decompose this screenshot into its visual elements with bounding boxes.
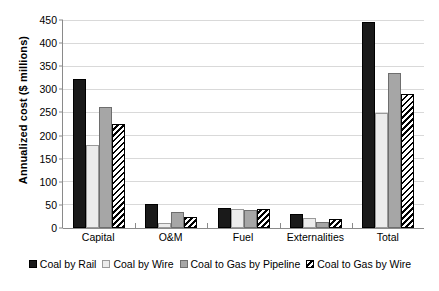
y-tick-label: 200	[39, 130, 63, 142]
legend-label: Coal by Wire	[113, 259, 173, 270]
y-tick-label: 450	[39, 14, 63, 26]
bar	[388, 73, 401, 228]
y-tick-label: 300	[39, 83, 63, 95]
bar	[290, 214, 303, 228]
x-axis-labels: CapitalO&MFuelExternalitiesTotal	[62, 231, 424, 243]
bar	[244, 210, 257, 228]
bar	[362, 22, 375, 228]
x-axis-label: Externalities	[279, 231, 351, 243]
plot-area: 050100150200250300350400450	[62, 20, 424, 228]
y-tick-label: 400	[39, 37, 63, 49]
bar-group	[135, 20, 207, 228]
legend-swatch-icon	[102, 260, 110, 268]
bar	[184, 217, 197, 228]
y-tick-label: 50	[45, 199, 63, 211]
y-tick-label: 150	[39, 153, 63, 165]
bar-groups	[63, 20, 424, 228]
bar	[329, 219, 342, 228]
bar-group	[207, 20, 279, 228]
bar-group	[352, 20, 424, 228]
legend-swatch-icon	[29, 260, 37, 268]
legend-item[interactable]: Coal by Wire	[102, 259, 173, 270]
bar-chart: Annualized cost ($ millions) 05010015020…	[0, 0, 439, 291]
y-tick-label: 350	[39, 60, 63, 72]
x-axis-label: Total	[352, 231, 424, 243]
legend-swatch-icon	[306, 260, 314, 268]
bar	[316, 222, 329, 228]
x-axis-label: Capital	[62, 231, 134, 243]
bar	[158, 223, 171, 228]
chart-legend: Coal by RailCoal by WireCoal to Gas by P…	[24, 259, 416, 270]
legend-item[interactable]: Coal to Gas by Wire	[306, 259, 411, 270]
bar	[145, 204, 158, 228]
x-axis-label: O&M	[134, 231, 206, 243]
legend-swatch-icon	[180, 260, 188, 268]
bar	[218, 208, 231, 228]
legend-label: Coal by Rail	[40, 259, 97, 270]
bar	[231, 209, 244, 228]
y-tick-label: 250	[39, 106, 63, 118]
legend-label: Coal to Gas by Wire	[317, 259, 411, 270]
bar-group	[63, 20, 135, 228]
y-axis-title: Annualized cost ($ millions)	[17, 5, 29, 215]
bar	[401, 94, 414, 228]
bar	[86, 145, 99, 228]
bar	[375, 113, 388, 228]
bar	[171, 212, 184, 228]
bar	[112, 124, 125, 228]
bar	[303, 218, 316, 228]
bar	[99, 107, 112, 228]
x-axis-label: Fuel	[207, 231, 279, 243]
bar	[73, 79, 86, 228]
legend-item[interactable]: Coal to Gas by Pipeline	[180, 259, 301, 270]
bar	[257, 209, 270, 228]
legend-label: Coal to Gas by Pipeline	[191, 259, 301, 270]
y-tick-label: 100	[39, 176, 63, 188]
bar-group	[280, 20, 352, 228]
legend-item[interactable]: Coal by Rail	[29, 259, 97, 270]
